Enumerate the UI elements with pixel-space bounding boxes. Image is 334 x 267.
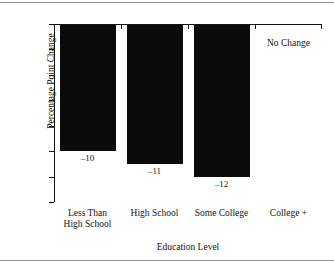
x-axis-category-label-line: Less Than [54, 208, 121, 219]
x-axis-category-label: Some College [188, 208, 255, 219]
bar [194, 25, 250, 177]
x-axis-category-label-line: College + [255, 208, 322, 219]
x-axis-tick [121, 25, 122, 29]
x-axis-category-label-line: Some College [188, 208, 255, 219]
y-axis-title: Percentage Point Change [46, 6, 56, 156]
bar-value-label: –12 [194, 180, 250, 189]
bar-value-label: –10 [60, 154, 116, 163]
figure-rule-top [0, 2, 334, 3]
figure-rule-bottom [0, 260, 334, 261]
x-axis-title: Education Level [54, 242, 322, 253]
x-axis-category-label-line: High School [121, 208, 188, 219]
x-axis-tick [321, 25, 322, 29]
x-axis-category-label: High School [121, 208, 188, 219]
x-axis-tick [255, 25, 256, 29]
no-change-annotation: No Change [255, 38, 322, 49]
y-axis-tick [49, 177, 54, 178]
bar-value-label: –11 [127, 167, 183, 176]
x-axis-tick [188, 25, 189, 29]
bar-chart-plot-area: 0-2-4-6-8-10-12-14 –10–11–12 No Change L… [54, 24, 322, 202]
y-axis-tick [49, 202, 54, 203]
bar [60, 25, 116, 151]
x-axis-category-label-line: High School [54, 219, 121, 230]
bar [127, 25, 183, 164]
x-axis-category-label: Less ThanHigh School [54, 208, 121, 230]
x-axis-category-label: College + [255, 208, 322, 219]
